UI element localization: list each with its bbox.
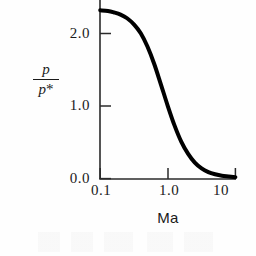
data-curve [100,10,235,177]
y-axis-title: p p* [24,62,68,97]
x-axis-title: Ma [100,209,236,226]
y-tick-label-1: 1.0 [32,98,90,113]
x-tick-label-1: 1.0 [144,183,194,198]
figure-canvas: 0.0 1.0 2.0 0.1 1.0 10 p p* Ma [0,0,256,256]
star-icon: * [46,81,54,97]
y-axis-title-denominator-symbol: p [39,81,47,97]
fraction-bar-icon [33,79,59,80]
y-axis-title-numerator: p [24,62,68,78]
y-axis-title-denominator: p* [24,82,68,97]
x-tick-label-0: 0.1 [76,183,126,198]
y-tick-label-2: 2.0 [32,26,90,41]
x-tick-label-2: 10 [213,183,255,198]
